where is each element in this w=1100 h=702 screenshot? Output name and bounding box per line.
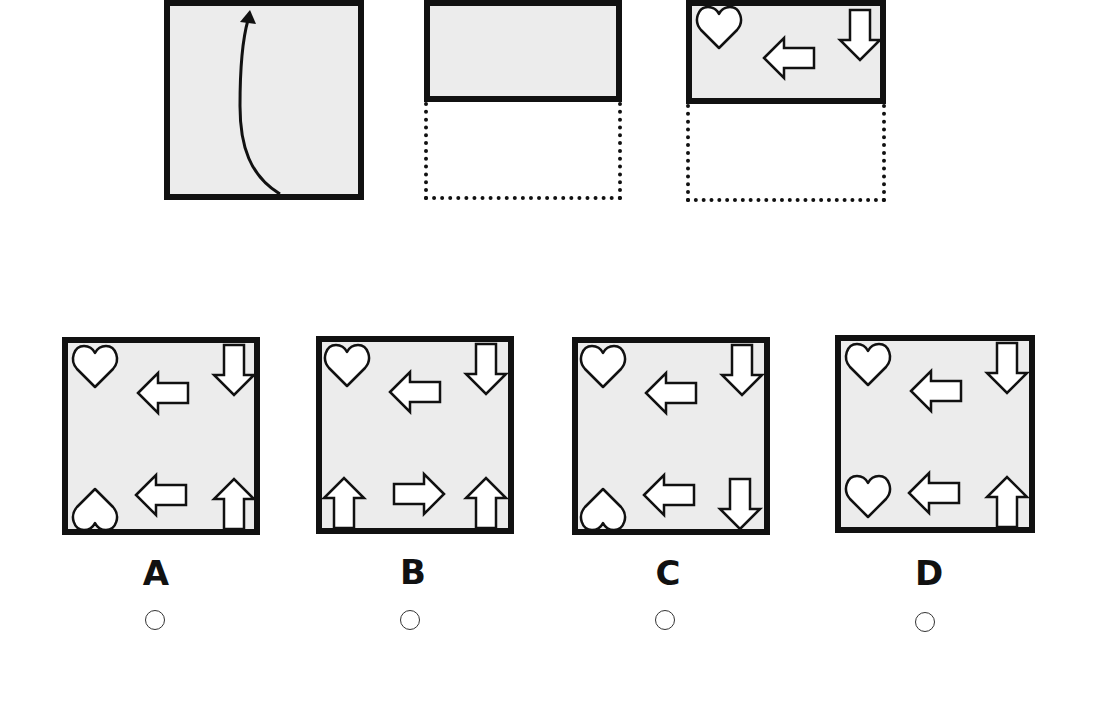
arrow-left-icon [911,371,961,411]
step-2-dotted-outline [424,102,622,200]
heart-inverted-icon [73,489,117,529]
arrow-left-icon [644,475,694,515]
heart-icon [73,346,117,387]
option-c-figure[interactable] [572,337,770,535]
arrow-down-icon [214,345,254,395]
step-3-folded-paper-with-shapes [686,0,886,104]
fold-arrow-icon [170,6,358,194]
step-2-folded-paper [424,0,622,102]
arrow-left-icon [646,373,696,413]
arrow-up-icon [324,478,364,528]
arrow-up-icon [466,478,506,528]
heart-icon [846,344,890,385]
option-a-label: A [126,553,186,593]
option-b-figure[interactable] [316,336,514,534]
heart-icon [697,7,741,48]
heart-icon [325,345,369,386]
arrow-down-icon [466,344,506,394]
arrow-left-icon [390,372,440,412]
heart-icon [846,476,890,517]
option-d-figure[interactable] [835,335,1035,533]
arrow-up-icon [214,479,254,529]
arrow-right-icon [394,474,444,514]
heart-icon [581,346,625,387]
arrow-down-icon [840,10,880,60]
option-c-label: C [638,553,698,593]
arrow-down-icon [722,345,762,395]
step-3-dotted-outline [686,104,886,202]
option-d-label: D [899,553,959,593]
option-a-radio[interactable] [145,610,165,630]
option-b-label: B [383,552,443,592]
heart-inverted-icon [581,489,625,529]
option-a-figure[interactable] [62,337,260,535]
step-1-paper [164,0,364,200]
arrow-down-icon [720,479,760,529]
arrow-left-icon [909,473,959,513]
option-d-radio[interactable] [915,612,935,632]
option-b-radio[interactable] [400,610,420,630]
arrow-left-icon [764,38,814,78]
arrow-up-icon [987,477,1027,527]
arrow-left-icon [138,373,188,413]
arrow-left-icon [136,475,186,515]
arrow-down-icon [987,343,1027,393]
option-c-radio[interactable] [655,610,675,630]
